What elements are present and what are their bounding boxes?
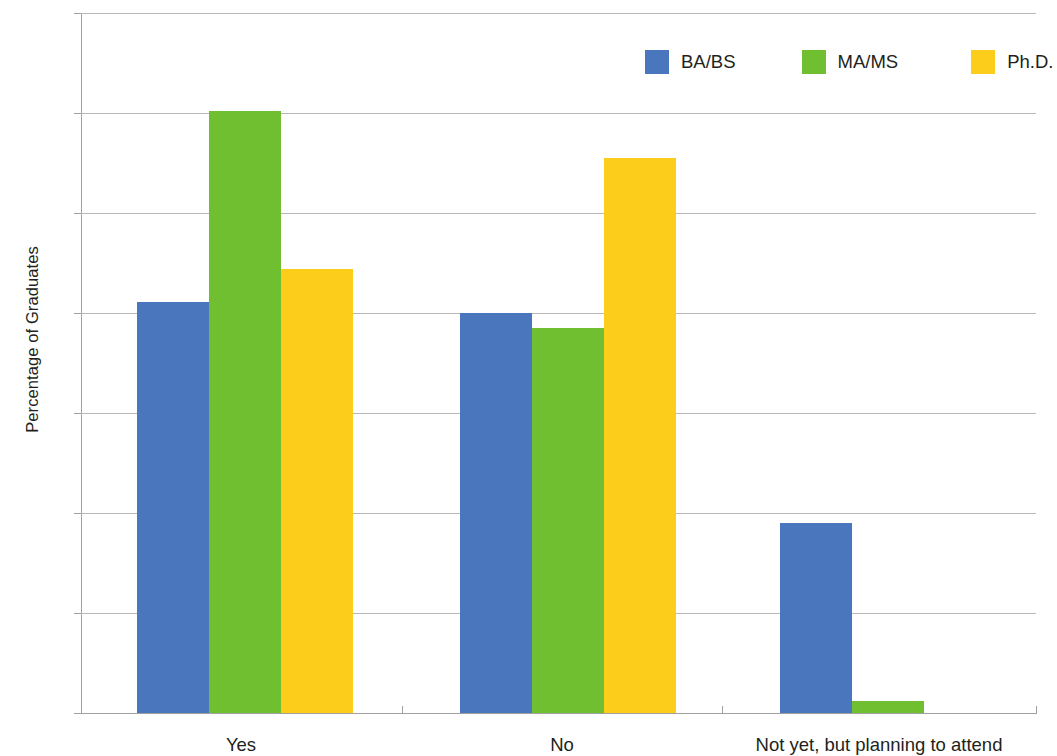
gridline-0% <box>81 713 1036 714</box>
bar-ba-bs-1 <box>137 302 209 713</box>
y-tick-mark <box>74 313 81 314</box>
legend-swatch-ma-ms <box>802 50 826 74</box>
bar-ba-bs-2 <box>460 313 532 713</box>
y-tick-mark <box>74 413 81 414</box>
category-separator <box>1036 706 1037 714</box>
category-separator <box>722 706 723 714</box>
y-tick-mark <box>74 213 81 214</box>
bar-ma-ms-3 <box>852 701 924 713</box>
legend-label-ba-bs: BA/BS <box>681 51 736 73</box>
legend-label-ma-ms: MA/MS <box>838 51 899 73</box>
legend: BA/BS MA/MS Ph.D. <box>645 50 1053 74</box>
category-separator <box>402 706 403 714</box>
legend-item-ba-bs: BA/BS <box>645 50 736 74</box>
x-axis-label-3: Not yet, but planning to attend <box>679 734 1057 756</box>
y-tick-mark <box>74 613 81 614</box>
y-tick-mark <box>74 513 81 514</box>
y-tick-mark <box>74 713 81 714</box>
bar-ma-ms-2 <box>532 328 604 713</box>
plot-area: 0%10%20%30%40%50%60%70% YesNoNot yet, bu… <box>81 13 1036 713</box>
legend-swatch-phd <box>971 50 995 74</box>
bar-ph-d--2 <box>604 158 676 713</box>
legend-swatch-ba-bs <box>645 50 669 74</box>
legend-label-phd: Ph.D. <box>1007 51 1053 73</box>
y-axis-title: Percentage of Graduates <box>23 190 42 490</box>
y-tick-mark <box>74 113 81 114</box>
bar-ba-bs-3 <box>780 523 852 713</box>
legend-item-ma-ms: MA/MS <box>802 50 899 74</box>
bar-ph-d--1 <box>281 269 353 713</box>
bar-ma-ms-1 <box>209 111 281 713</box>
y-axis-line <box>81 13 82 713</box>
legend-item-phd: Ph.D. <box>971 50 1053 74</box>
y-tick-mark <box>74 13 81 14</box>
gridline-70% <box>81 13 1036 14</box>
